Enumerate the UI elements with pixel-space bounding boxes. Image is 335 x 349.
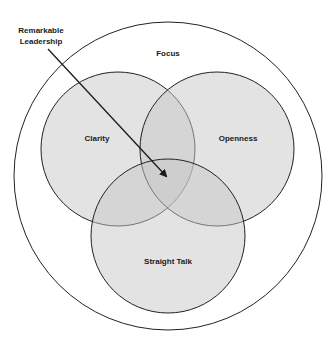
circle-straight-talk [91, 159, 245, 313]
pointer-label: Remarkable Leadership [18, 25, 63, 47]
label-focus: Focus [156, 49, 180, 58]
pointer-label-line2: Leadership [18, 36, 63, 47]
pointer-label-line1: Remarkable [18, 25, 63, 36]
label-straight-talk: Straight Talk [144, 257, 192, 266]
label-openness: Openness [219, 134, 258, 143]
label-clarity: Clarity [85, 134, 110, 143]
